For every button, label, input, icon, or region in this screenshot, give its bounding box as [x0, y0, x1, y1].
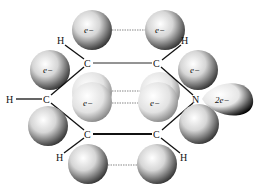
- orbital-lower-left: [28, 106, 68, 146]
- electron-label-lone-pair: 2e−: [215, 95, 230, 105]
- atom-N: N: [192, 94, 199, 105]
- p-orbital-lobes-back: [30, 10, 218, 112]
- atom-C5: C: [153, 129, 160, 140]
- orbital-bottom-right: [137, 144, 177, 184]
- electron-label-middle-left: e−: [83, 98, 93, 108]
- electron-label-middle-right: e−: [150, 98, 160, 108]
- atom-C2: C: [153, 58, 160, 69]
- atom-H4: H: [56, 152, 63, 163]
- orbital-bottom-left: [68, 144, 108, 184]
- atom-H5: H: [180, 152, 187, 163]
- bond-H1-C1: [65, 45, 84, 59]
- atom-C4: C: [84, 129, 91, 140]
- atom-H3: H: [6, 94, 13, 105]
- pyridine-orbital-diagram: H C C H H C N C C H H e− e− e− e− e− e− …: [0, 0, 257, 192]
- orbital-lower-right: [179, 104, 219, 144]
- p-orbital-lobes-front: [28, 82, 219, 184]
- electron-label-upper-left: e−: [43, 65, 53, 75]
- atom-C1: C: [84, 58, 91, 69]
- atom-C3: C: [43, 94, 50, 105]
- atom-H2: H: [181, 35, 188, 46]
- electron-label-top-left: e−: [84, 25, 94, 35]
- electron-label-top-right: e−: [155, 25, 165, 35]
- electron-label-upper-right: e−: [190, 65, 200, 75]
- atom-H1: H: [57, 35, 64, 46]
